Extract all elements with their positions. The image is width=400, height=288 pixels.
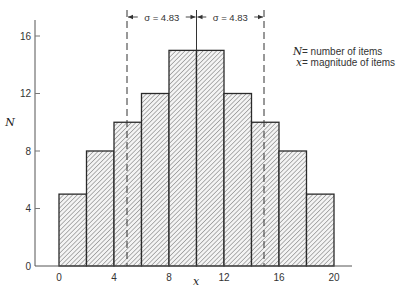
histogram-bar — [307, 194, 335, 266]
histogram-bar — [279, 151, 307, 266]
arrowhead-right-icon — [258, 15, 263, 19]
y-tick-label: 8 — [25, 146, 31, 157]
legend-label: = magnitude of items — [302, 57, 395, 68]
y-tick-label: 12 — [20, 88, 32, 99]
legend-item: N= number of items — [292, 45, 382, 57]
histogram-bar — [59, 194, 87, 266]
legend-item: x= magnitude of items — [296, 56, 395, 68]
x-tick-label: 20 — [328, 272, 340, 283]
arrowhead-left-icon — [198, 15, 203, 19]
sigma-right-label: σ = 4.83 — [213, 12, 248, 23]
x-tick-label: 0 — [56, 272, 62, 283]
x-tick-label: 12 — [218, 272, 230, 283]
y-axis-title: N — [4, 116, 15, 129]
legend: N= number of itemsx= magnitude of items — [292, 45, 395, 68]
histogram-bar — [114, 122, 142, 266]
y-tick-label: 0 — [25, 261, 31, 272]
histogram-bar — [252, 122, 280, 266]
x-axis-title: x — [193, 275, 200, 288]
histogram-bar — [224, 94, 252, 267]
legend-label: = number of items — [302, 46, 382, 57]
x-tick-label: 16 — [273, 272, 285, 283]
x-tick-label: 4 — [111, 272, 117, 283]
sigma-left-label: σ = 4.83 — [144, 12, 179, 23]
arrowhead-right-icon — [191, 15, 196, 19]
histogram-bars — [59, 50, 334, 266]
histogram-chart: 0481216048121620xN σ = 4.83σ = 4.83 N= n… — [0, 0, 400, 288]
histogram-bar — [169, 50, 197, 266]
histogram-bar — [87, 151, 115, 266]
histogram-bar — [197, 50, 225, 266]
y-tick-label: 16 — [20, 31, 32, 42]
x-tick-label: 8 — [166, 272, 172, 283]
arrowhead-left-icon — [128, 15, 133, 19]
histogram-bar — [142, 94, 170, 267]
y-tick-label: 4 — [25, 203, 31, 214]
